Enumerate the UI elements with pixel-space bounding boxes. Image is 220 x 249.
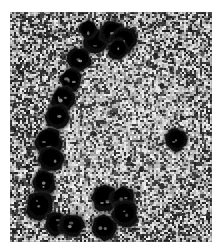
particle	[43, 103, 71, 130]
micrograph-image	[10, 12, 212, 242]
micrograph-plate	[10, 12, 212, 242]
figure-container	[0, 0, 220, 249]
